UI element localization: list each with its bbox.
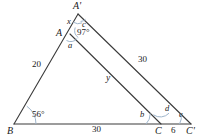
angle-arc-b-small [146, 114, 150, 125]
vertex-label-a: A [56, 28, 62, 38]
angle-label-x: x [67, 17, 71, 26]
angle-label-c-small: c [82, 20, 86, 29]
side-label-ac: y [106, 74, 110, 84]
side-label-cc-prime: 6 [171, 126, 176, 135]
angle-label-d-small: d [165, 104, 169, 113]
geometry-diagram: A' A B C C' 20 30 30 6 y 56° 97° x c a b… [0, 0, 205, 139]
vertex-label-a-prime: A' [73, 1, 81, 11]
angle-label-b-small: b [140, 110, 144, 119]
segment-a-prime-to-c-prime [78, 14, 191, 124]
angle-arc-x [73, 22, 82, 23]
angle-label-a-small: a [68, 41, 72, 50]
vertex-label-c-prime: C' [186, 126, 195, 136]
angle-label-e-small: e [179, 110, 183, 119]
angle-arc-d [153, 113, 169, 117]
segment-b-to-a-prime [14, 14, 78, 124]
side-label-bc: 30 [92, 125, 101, 134]
vertex-label-c: C [155, 126, 162, 136]
angle-label-97: 97° [77, 28, 90, 37]
side-label-a-prime-c-prime: 30 [138, 55, 147, 64]
vertex-label-b: B [7, 126, 13, 136]
side-label-ab: 20 [32, 60, 41, 69]
angle-label-b: 56° [32, 110, 45, 119]
diagram-canvas [0, 0, 205, 139]
segment-a-to-c [70, 34, 161, 124]
